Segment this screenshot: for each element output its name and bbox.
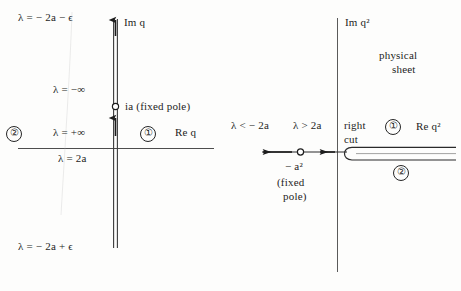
right-imag-axis-label: Im q² (345, 16, 370, 29)
right-cut-label-line1: right (344, 119, 366, 132)
left-sheet-two-badge: ② (6, 126, 22, 142)
figure-canvas: λ = − 2a − ϵ Im q λ = −∞ ia (fixed pole)… (0, 0, 461, 291)
right-fixed-pole-marker (297, 149, 303, 155)
left-fixed-pole-marker (112, 103, 118, 109)
left-lambda-two-a-label: λ = 2a (58, 152, 87, 165)
right-lambda-greater-than-label: λ > 2a (293, 119, 322, 132)
right-cut-contour (345, 147, 457, 160)
right-fixed-pole-note-line2: pole) (283, 190, 307, 203)
left-lambda-bottom-label: λ = − 2a + ϵ (18, 240, 73, 253)
left-fixed-pole-label: ia (fixed pole) (125, 100, 190, 113)
left-lambda-minus-infinity-label: λ = −∞ (53, 83, 85, 96)
paper-crease (61, 12, 72, 215)
right-sheet-one-badge: ① (385, 119, 401, 135)
physical-sheet-label-line1: physical (379, 49, 417, 62)
left-real-axis-label: Re q (175, 126, 196, 139)
left-imag-axis-label: Im q (124, 16, 145, 29)
left-sheet-one-badge: ① (140, 126, 156, 142)
right-cut-label-line2: cut (344, 133, 358, 146)
right-lambda-less-than-label: λ < − 2a (231, 119, 269, 132)
right-sheet-two-badge: ② (393, 165, 409, 181)
right-fixed-pole-note-line1: (fixed (277, 176, 304, 189)
left-lambda-plus-infinity-label: λ = +∞ (53, 126, 85, 139)
left-lambda-top-label: λ = − 2a − ϵ (18, 11, 73, 24)
physical-sheet-label-line2: sheet (392, 63, 416, 76)
right-real-axis-label: Re q² (416, 120, 441, 133)
right-fixed-pole-value-label: − a² (285, 160, 303, 173)
